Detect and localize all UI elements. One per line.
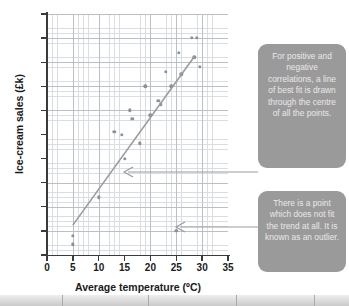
x-tick — [98, 255, 99, 261]
scatter-chart: 050100150200250300350400450500 051015202… — [0, 0, 249, 300]
y-tick — [41, 230, 47, 231]
x-tick — [124, 255, 125, 261]
x-tick — [176, 255, 177, 261]
x-tick — [72, 255, 73, 261]
plot-area — [47, 14, 228, 255]
x-tick-label: 20 — [138, 263, 162, 273]
x-tick — [150, 255, 151, 261]
y-tick — [41, 182, 47, 183]
x-tick — [201, 255, 202, 261]
x-tick-label: 10 — [87, 263, 111, 273]
y-tick — [41, 13, 47, 14]
x-tick — [227, 255, 228, 261]
y-tick — [41, 37, 47, 38]
y-tick — [41, 206, 47, 207]
x-tick-label: 25 — [164, 263, 188, 273]
y-tick — [41, 86, 47, 87]
y-tick — [41, 110, 47, 111]
grid-major — [47, 14, 228, 255]
x-tick-label: 35 — [216, 263, 240, 273]
x-tick-label: 5 — [61, 263, 85, 273]
y-tick — [41, 158, 47, 159]
x-tick-label: 30 — [190, 263, 214, 273]
page-bottom-strip — [0, 295, 349, 306]
x-tick — [46, 255, 47, 261]
x-tick-label: 0 — [35, 263, 59, 273]
y-axis-label: Ice-cream sales (£k) — [13, 44, 25, 204]
x-axis-label: Average temperature (ºC) — [40, 281, 236, 293]
figure-root: 050100150200250300350400450500 051015202… — [0, 0, 349, 306]
y-tick — [41, 62, 47, 63]
callout-line-of-best-fit: For positive and negative correlations, … — [258, 44, 346, 168]
callout-outlier: There is a point which does not fit the … — [258, 191, 346, 272]
y-tick — [41, 134, 47, 135]
x-tick-label: 15 — [113, 263, 137, 273]
